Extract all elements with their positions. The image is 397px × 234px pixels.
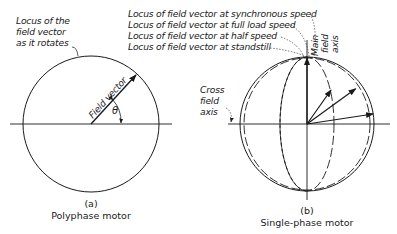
half-speed-vector xyxy=(307,90,331,124)
full-load-label: Locus of field vector at full load speed xyxy=(128,19,317,30)
standstill-label: Locus of field vector at standstill xyxy=(128,41,317,52)
synchronous-vector xyxy=(307,114,373,124)
locus-label-line: Locus of the xyxy=(16,15,70,26)
locus-label-line: as it rotates xyxy=(16,37,70,48)
caption-title: Polyphase motor xyxy=(41,210,141,222)
theta-label: θ xyxy=(112,105,118,116)
leader-cross-axis xyxy=(226,108,231,122)
locus-labels-b: Locus of field vector at synchronous spe… xyxy=(128,8,317,52)
caption-title: Single-phase motor xyxy=(252,217,362,229)
caption-letter: (b) xyxy=(252,205,362,217)
cross-axis-line: Cross xyxy=(200,84,224,95)
cross-axis-line: axis xyxy=(200,106,224,117)
caption-a: (a) Polyphase motor xyxy=(41,198,141,221)
half-speed-label: Locus of field vector at half speed xyxy=(128,30,317,41)
locus-leader xyxy=(72,47,78,56)
main-axis-line: axis xyxy=(330,34,340,56)
cross-axis-line: field xyxy=(200,95,224,106)
cross-field-axis-label: Cross field axis xyxy=(200,84,224,117)
caption-letter: (a) xyxy=(41,198,141,210)
caption-b: (b) Single-phase motor xyxy=(252,205,362,228)
synchronous-label: Locus of field vector at synchronous spe… xyxy=(128,8,317,19)
locus-label: Locus of the field vector as it rotates xyxy=(16,15,70,48)
polyphase-diagram xyxy=(10,47,172,192)
main-field-axis-label: Main field axis xyxy=(310,34,340,56)
locus-label-line: field vector xyxy=(16,26,70,37)
